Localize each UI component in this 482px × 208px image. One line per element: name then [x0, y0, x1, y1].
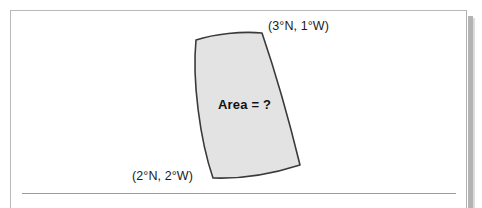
area-question-label: Area = ? — [218, 97, 271, 112]
figure-root: (3°N, 1°W) (2°N, 2°W) Area = ? — [0, 0, 482, 208]
bottom-horizontal-rule — [22, 193, 456, 194]
panel-shadow-right-soft — [473, 18, 475, 208]
coordinate-label-bottom-left: (2°N, 2°W) — [132, 169, 193, 183]
coordinate-label-top-right: (3°N, 1°W) — [268, 19, 329, 33]
